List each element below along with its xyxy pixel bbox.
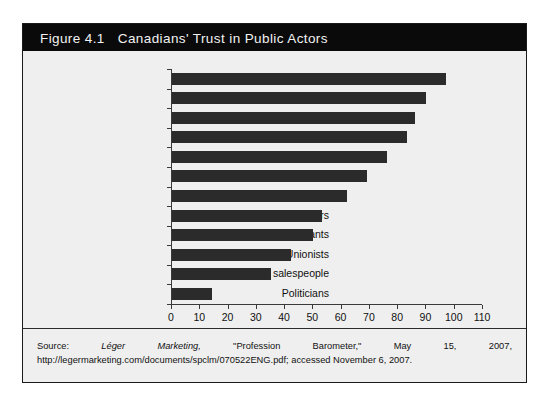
bar xyxy=(172,92,426,104)
bar-row: New-car salespeople xyxy=(171,265,482,284)
y-axis-tick xyxy=(167,128,171,129)
bar-row: Bankers xyxy=(171,167,482,186)
source-publisher: Léger Marketing, xyxy=(101,341,200,351)
bar-row: Teachers xyxy=(171,89,482,108)
x-axis-tick xyxy=(369,305,370,309)
bar-row: Firefighters xyxy=(171,69,482,88)
x-axis-tick-label: 40 xyxy=(278,311,290,323)
x-axis-tick xyxy=(341,305,342,309)
y-axis-tick xyxy=(167,147,171,148)
x-axis-tick xyxy=(397,305,398,309)
chart-area: FirefightersTeachersDoctorsPolice office… xyxy=(23,51,526,329)
figure-title-bar: Figure 4.1Canadians' Trust in Public Act… xyxy=(23,24,526,51)
y-axis-tick xyxy=(167,206,171,207)
x-axis-tick-label: 10 xyxy=(193,311,205,323)
figure-container: Figure 4.1Canadians' Trust in Public Act… xyxy=(22,23,527,383)
x-axis-line xyxy=(171,304,482,305)
bar xyxy=(172,229,313,241)
x-axis-tick-label: 100 xyxy=(445,311,463,323)
bar xyxy=(172,73,446,85)
bar xyxy=(172,131,407,143)
bar-row: Doctors xyxy=(171,108,482,127)
bar xyxy=(172,170,367,182)
x-axis-tick-label: 0 xyxy=(168,311,174,323)
category-label: Unionists xyxy=(286,248,329,260)
x-axis-tick-label: 70 xyxy=(363,311,375,323)
y-axis-tick xyxy=(167,265,171,266)
bar xyxy=(172,288,212,300)
y-axis-tick xyxy=(167,187,171,188)
bar-row: Unionists xyxy=(171,245,482,264)
x-axis-tick xyxy=(256,305,257,309)
bar-row: Judges xyxy=(171,147,482,166)
x-axis-tick-label: 20 xyxy=(222,311,234,323)
y-axis-tick xyxy=(167,245,171,246)
plot-region: FirefightersTeachersDoctorsPolice office… xyxy=(171,69,482,304)
bar xyxy=(172,112,415,124)
bar-row: Police officers xyxy=(171,128,482,147)
figure-caption: Canadians' Trust in Public Actors xyxy=(118,30,328,45)
x-axis-tick xyxy=(199,305,200,309)
bar-row: Politicians xyxy=(171,284,482,303)
x-axis-tick xyxy=(228,305,229,309)
x-axis-tick-label: 110 xyxy=(474,311,491,323)
x-axis-tick-label: 80 xyxy=(391,311,403,323)
category-label: Politicians xyxy=(282,287,329,299)
bar-row: Church officials xyxy=(171,187,482,206)
bar xyxy=(172,249,291,261)
x-axis-tick-label: 50 xyxy=(307,311,319,323)
bar xyxy=(172,210,322,222)
source-note: Source: Léger Marketing, "Profession Bar… xyxy=(37,340,512,367)
bar xyxy=(172,268,271,280)
x-axis-tick xyxy=(171,305,172,309)
x-axis-tick-label: 30 xyxy=(250,311,262,323)
figure-number: Figure 4.1 xyxy=(40,30,105,45)
x-axis-tick xyxy=(482,305,483,309)
y-axis-tick xyxy=(167,284,171,285)
y-axis-tick xyxy=(167,167,171,168)
bar xyxy=(172,190,347,202)
x-axis-tick xyxy=(284,305,285,309)
x-axis-tick xyxy=(454,305,455,309)
x-axis-tick xyxy=(312,305,313,309)
x-axis-tick xyxy=(425,305,426,309)
y-axis-tick xyxy=(167,226,171,227)
y-axis-tick xyxy=(167,89,171,90)
bar xyxy=(172,151,387,163)
y-axis-tick xyxy=(167,108,171,109)
source-area: Source: Léger Marketing, "Profession Bar… xyxy=(23,329,526,382)
x-axis-tick-label: 60 xyxy=(335,311,347,323)
bar-row: Lawyers xyxy=(171,206,482,225)
y-axis-tick xyxy=(167,304,171,305)
source-prefix: Source: xyxy=(37,341,69,351)
x-axis-tick-label: 90 xyxy=(420,311,432,323)
figure-title: Figure 4.1Canadians' Trust in Public Act… xyxy=(40,30,328,45)
bar-row: Senior public servants xyxy=(171,226,482,245)
y-axis-tick xyxy=(167,69,171,70)
